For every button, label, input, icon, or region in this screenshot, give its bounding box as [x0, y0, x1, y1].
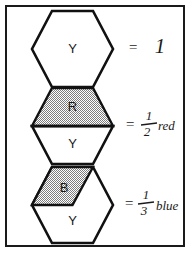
fraction-numerator-half: 1: [146, 108, 153, 123]
value-whole-one: 1: [155, 34, 166, 58]
letter-Y-third-remaining: Y: [68, 213, 77, 228]
equals-sign-row-2: =: [125, 116, 135, 132]
row-third-blue: B Y = 1 3 blue: [32, 167, 179, 243]
letter-R-top-half: R: [68, 99, 77, 114]
fraction-denominator-half: 2: [144, 124, 151, 139]
letter-Y-whole: Y: [68, 41, 77, 56]
row-whole: Y = 1: [32, 11, 165, 87]
color-word-blue: blue: [156, 198, 179, 213]
equals-sign-row-1: =: [128, 39, 138, 55]
letter-B-third: B: [60, 180, 69, 195]
fraction-numerator-third: 1: [143, 187, 150, 202]
pattern-block-fraction-diagram: Y = 1 R Y = 1 2 red B Y =: [0, 0, 193, 254]
figure-page: Y = 1 R Y = 1 2 red B Y =: [0, 0, 193, 254]
color-word-red: red: [158, 118, 175, 133]
letter-Y-bottom-half: Y: [68, 136, 77, 151]
equals-sign-row-3: =: [124, 195, 134, 211]
fraction-denominator-third: 3: [140, 203, 148, 218]
row-half-red: R Y = 1 2 red: [32, 88, 175, 164]
